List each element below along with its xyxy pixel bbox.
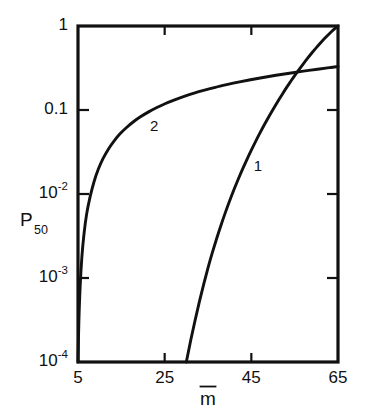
log-linear-line-chart: 5254565 10.110-210-310-4 m P 50 12 [0, 0, 366, 420]
y-tick-label: 0.1 [44, 99, 68, 118]
y-tick-label: 1 [59, 15, 68, 34]
svg-text:0.1: 0.1 [44, 99, 68, 118]
curve-label-1: 1 [254, 157, 262, 174]
curve-label-2: 2 [150, 117, 158, 134]
y-axis-title-base: P [20, 209, 33, 230]
x-tick-label: 25 [155, 368, 174, 387]
svg-text:1: 1 [59, 15, 68, 34]
x-tick-label: 5 [73, 368, 82, 387]
figure-container: 5254565 10.110-210-310-4 m P 50 12 [0, 0, 366, 420]
x-axis-title: m [200, 387, 217, 409]
x-axis-title-text: m [200, 388, 216, 409]
x-tick-label: 65 [329, 368, 348, 387]
x-tick-label: 45 [242, 368, 261, 387]
y-axis-title-subscript: 50 [34, 223, 48, 237]
